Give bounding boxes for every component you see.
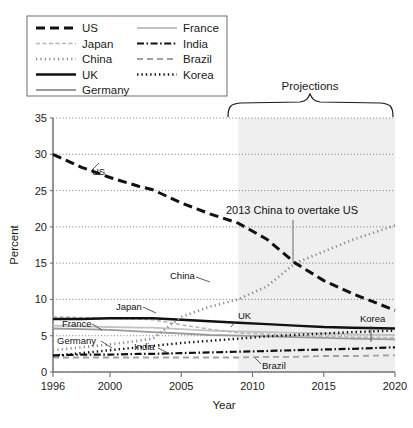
y-tick-label-5: 5: [41, 330, 47, 342]
inline-label-germany: Germany: [57, 335, 96, 346]
y-axis-title: Percent: [8, 224, 20, 264]
inline-label-brazil: Brazil: [262, 360, 286, 371]
projections-brace-group: Projections: [228, 80, 393, 117]
legend-label-korea: Korea: [183, 69, 214, 81]
legend-label-uk: UK: [82, 69, 98, 81]
inline-label-japan: Japan: [116, 301, 142, 312]
legend: USJapanChinaUKGermanyFranceIndiaBrazilKo…: [27, 16, 227, 96]
y-tick-label-10: 10: [35, 293, 47, 305]
x-tick-label-2015: 2015: [312, 380, 336, 392]
legend-label-india: India: [183, 38, 209, 50]
y-tick-labels: 05101520253035: [35, 112, 53, 378]
projections-label: Projections: [282, 80, 339, 92]
inline-label-india: India: [134, 341, 155, 352]
figure-container: 05101520253035 199620002005201020152020 …: [0, 0, 413, 428]
x-tick-label-2005: 2005: [169, 380, 193, 392]
y-tick-label-15: 15: [35, 257, 47, 269]
x-tick-label-1996: 1996: [41, 380, 65, 392]
inline-label-china: China: [170, 270, 196, 281]
x-axis-title: Year: [212, 399, 235, 411]
x-tick-labels: 199620002005201020152020: [41, 372, 407, 392]
y-tick-label-20: 20: [35, 221, 47, 233]
y-tick-label-0: 0: [41, 366, 47, 378]
inline-label-france: France: [62, 318, 92, 329]
x-tick-label-2000: 2000: [98, 380, 122, 392]
line-chart: 05101520253035 199620002005201020152020 …: [0, 0, 413, 428]
overtake-annotation-label: 2013 China to overtake US: [226, 204, 358, 216]
legend-label-china: China: [82, 53, 113, 65]
x-tick-label-2010: 2010: [240, 380, 264, 392]
x-tick-label-2020: 2020: [383, 380, 407, 392]
y-tick-label-35: 35: [35, 112, 47, 124]
y-tick-label-25: 25: [35, 185, 47, 197]
legend-label-france: France: [183, 22, 219, 34]
legend-label-brazil: Brazil: [183, 53, 212, 65]
legend-label-japan: Japan: [82, 38, 113, 50]
legend-label-us: US: [82, 22, 98, 34]
inline-label-uk: UK: [238, 310, 252, 321]
legend-label-germany: Germany: [82, 84, 130, 96]
inline-label-korea: Korea: [360, 313, 386, 324]
inline-label-us: US: [92, 166, 105, 177]
projections-brace-icon: [228, 94, 393, 117]
y-tick-label-30: 30: [35, 148, 47, 160]
